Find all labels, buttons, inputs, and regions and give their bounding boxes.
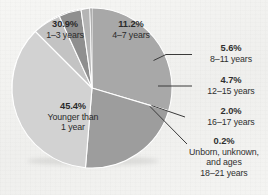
callout-label-16-17-years: 2.0% 16–17 years: [195, 106, 267, 127]
callout-pct-8-11-years: 5.6%: [195, 43, 267, 54]
slice-cat-4-7-years: 4–7 years: [100, 30, 162, 40]
callout-cat-unborn-unknown-line3: 18–21 years: [180, 168, 268, 178]
callout-pct-12-15-years: 4.7%: [195, 75, 267, 86]
slice-cat-younger-than-1-year-line1: Younger than: [26, 112, 120, 122]
callout-cat-unborn-unknown-line1: Unborn, unknown,: [180, 147, 268, 157]
callout-label-12-15-years: 4.7% 12–15 years: [195, 75, 267, 96]
callout-label-8-11-years: 5.6% 8–11 years: [195, 43, 267, 64]
callout-cat-8-11-years: 8–11 years: [195, 54, 267, 64]
slice-label-younger-than-1-year: 45.4% Younger than 1 year: [26, 101, 120, 133]
callout-cat-16-17-years: 16–17 years: [195, 117, 267, 127]
slice-pct-1-3-years: 30.9%: [28, 19, 102, 30]
slice-cat-younger-than-1-year-line2: 1 year: [26, 122, 120, 132]
callout-cat-unborn-unknown-line2: and ages: [180, 157, 268, 167]
pie-chart: 30.9% 1–3 years 11.2% 4–7 years 45.4% Yo…: [0, 0, 268, 195]
slice-pct-4-7-years: 11.2%: [100, 19, 162, 30]
slice-cat-1-3-years: 1–3 years: [28, 30, 102, 40]
callout-pct-16-17-years: 2.0%: [195, 106, 267, 117]
callout-cat-12-15-years: 12–15 years: [195, 86, 267, 96]
slice-label-1-3-years: 30.9% 1–3 years: [28, 19, 102, 40]
slice-label-4-7-years: 11.2% 4–7 years: [100, 19, 162, 40]
callout-pct-unborn-unknown: 0.2%: [180, 136, 268, 147]
slice-pct-younger-than-1-year: 45.4%: [26, 101, 120, 112]
callout-label-unborn-unknown-18-21-years: 0.2% Unborn, unknown, and ages 18–21 yea…: [180, 136, 268, 178]
